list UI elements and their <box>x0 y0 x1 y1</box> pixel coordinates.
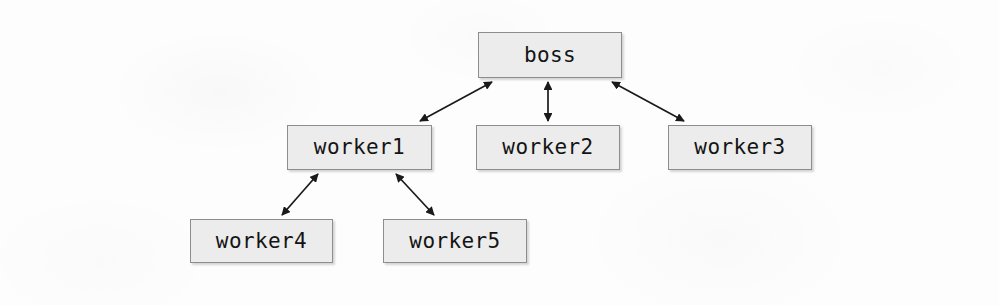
node-worker5[interactable]: worker5 <box>383 219 527 263</box>
edge-worker1-worker4 <box>282 174 318 215</box>
node-label-worker4: worker4 <box>216 231 307 252</box>
node-worker3[interactable]: worker3 <box>668 125 812 170</box>
node-worker4[interactable]: worker4 <box>190 219 333 263</box>
node-worker1[interactable]: worker1 <box>287 125 432 170</box>
node-label-boss: boss <box>524 45 576 66</box>
node-label-worker3: worker3 <box>694 137 785 158</box>
node-label-worker5: worker5 <box>409 231 500 252</box>
edge-worker1-worker5 <box>396 174 434 215</box>
node-label-worker1: worker1 <box>314 137 405 158</box>
node-boss[interactable]: boss <box>478 32 622 78</box>
edge-boss-worker1 <box>420 82 492 121</box>
edge-boss-worker3 <box>612 82 684 121</box>
node-label-worker2: worker2 <box>502 137 593 158</box>
node-worker2[interactable]: worker2 <box>476 125 620 170</box>
diagram-canvas: bossworker1worker2worker3worker4worker5 <box>0 0 999 305</box>
